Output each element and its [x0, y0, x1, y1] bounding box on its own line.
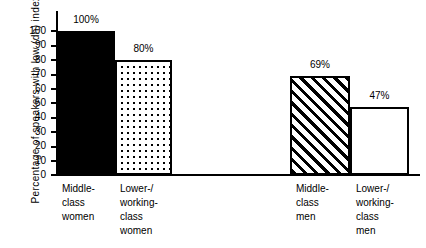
y-tick-label-70: 70 [6, 69, 46, 79]
y-tick-label-80: 80 [6, 55, 46, 65]
y-tick-label-20: 20 [6, 141, 46, 151]
bar-middle-class-women [57, 31, 115, 175]
x-category-label-middle-class-women: Middle- class women [62, 182, 95, 224]
x-category-label-middle-class-men: Middle- class men [296, 182, 329, 224]
y-tick-label-10: 10 [6, 156, 46, 166]
bar-value-lower-working-class-men: 47% [350, 91, 409, 101]
y-tick-label-90: 90 [6, 40, 46, 50]
x-category-label-lower-working-class-men: Lower-/ working- class men [356, 182, 394, 238]
y-tick-label-100: 100 [6, 26, 46, 36]
bar-middle-class-men [290, 76, 350, 175]
bar-value-lower-working-class-women: 80% [115, 44, 172, 54]
bar-lower-working-class-women [115, 60, 172, 175]
bar-chart: Percentage of speakers with low (dh) ind… [0, 0, 426, 248]
y-tick-label-0: 0 [6, 170, 46, 180]
y-tick-label-40: 40 [6, 112, 46, 122]
bar-lower-working-class-men [350, 107, 409, 175]
y-tick-label-50: 50 [6, 98, 46, 108]
bar-value-middle-class-women: 100% [57, 15, 115, 25]
x-category-label-lower-working-class-women: Lower-/ working- class women [120, 182, 158, 238]
y-tick-label-60: 60 [6, 84, 46, 94]
y-tick-label-30: 30 [6, 127, 46, 137]
bar-value-middle-class-men: 69% [290, 60, 350, 70]
